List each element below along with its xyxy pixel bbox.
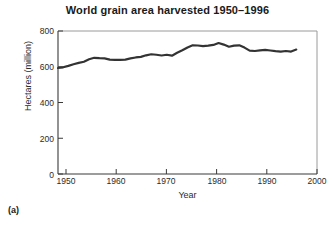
x-tick-label-2000: 2000 (300, 176, 334, 186)
x-tick-label-1970: 1970 (149, 176, 183, 186)
panel-caption-label: (a) (8, 205, 19, 215)
y-axis-ticks (58, 31, 63, 174)
x-axis-ticks (66, 169, 317, 174)
plot-area: 0 200 400 600 800 1950 1960 1970 1980 19… (0, 0, 335, 225)
y-tick-label-200: 200 (28, 134, 54, 144)
x-tick-label-1960: 1960 (99, 176, 133, 186)
x-tick-label-1980: 1980 (200, 176, 234, 186)
x-tick-label-1990: 1990 (250, 176, 284, 186)
x-tick-label-1950: 1950 (49, 176, 83, 186)
figure-panel: World grain area harvested 1950–1996 (0, 0, 335, 225)
y-axis-label: Hectares (million) (23, 21, 33, 131)
x-axis-label: Year (58, 190, 317, 200)
data-line-world-grain-area (58, 43, 296, 68)
